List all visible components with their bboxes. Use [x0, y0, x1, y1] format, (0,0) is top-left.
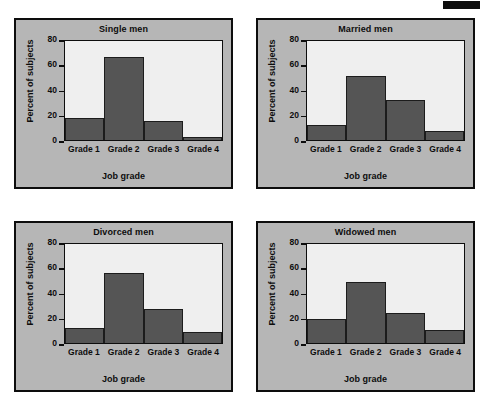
x-axis-tick-label: Grade 2 — [104, 347, 144, 357]
y-axis-ticks: 020406080 — [16, 243, 64, 344]
x-axis-tick-label: Grade 1 — [64, 144, 104, 154]
x-axis-tick-labels: Grade 1Grade 2Grade 3Grade 4 — [64, 347, 223, 357]
y-axis-tick-label: 20 — [290, 313, 299, 323]
x-axis-tick-label: Grade 4 — [425, 347, 465, 357]
y-axis-ticks: 020406080 — [16, 40, 64, 141]
y-axis-tick-label: 80 — [290, 237, 299, 247]
bar-chart-panel-grid: Single menPercent of subjects020406080Gr… — [0, 0, 490, 407]
x-axis-label: Job grade — [16, 374, 231, 384]
x-axis-tick-label: Grade 1 — [306, 347, 346, 357]
bar-series — [65, 244, 222, 343]
bar — [307, 319, 346, 343]
y-axis-tick-label: 60 — [290, 262, 299, 272]
y-axis-tick-label: 0 — [294, 338, 299, 348]
bar — [104, 57, 143, 140]
x-axis-tick-label: Grade 1 — [64, 347, 104, 357]
chart-panel: Widowed menPercent of subjects020406080G… — [256, 221, 475, 392]
y-axis-tick-label: 20 — [48, 110, 57, 120]
panel-title: Single men — [16, 24, 231, 34]
panel-title: Divorced men — [16, 227, 231, 237]
bar — [425, 330, 464, 343]
x-axis-tick-label: Grade 4 — [183, 144, 223, 154]
panel-title: Married men — [258, 24, 473, 34]
y-axis-tick-label: 80 — [290, 34, 299, 44]
x-axis-tick-label: Grade 3 — [386, 347, 426, 357]
y-axis-tick-label: 20 — [48, 313, 57, 323]
bar-series — [307, 41, 464, 140]
y-axis-tick-label: 60 — [48, 59, 57, 69]
y-axis-ticks: 020406080 — [258, 243, 306, 344]
plot-area — [64, 40, 223, 141]
y-axis-tick-label: 40 — [290, 85, 299, 95]
x-axis-tick-label: Grade 4 — [425, 144, 465, 154]
bar-series — [307, 244, 464, 343]
bar — [65, 118, 104, 140]
bar — [386, 313, 425, 343]
y-axis-tick-label: 40 — [290, 288, 299, 298]
x-axis-tick-label: Grade 1 — [306, 144, 346, 154]
bar — [104, 273, 143, 343]
panel-title: Widowed men — [258, 227, 473, 237]
bar — [144, 121, 183, 140]
y-axis-tick-label: 60 — [290, 59, 299, 69]
bar — [183, 332, 222, 343]
x-axis-label: Job grade — [16, 171, 231, 181]
y-axis-tick-mark — [301, 344, 306, 346]
y-axis-tick-label: 80 — [48, 237, 57, 247]
bar — [425, 131, 464, 140]
y-axis-tick-mark — [59, 141, 64, 143]
plot-area — [64, 243, 223, 344]
y-axis-tick-label: 0 — [52, 338, 57, 348]
x-axis-tick-label: Grade 2 — [346, 347, 386, 357]
plot-area — [306, 243, 465, 344]
chart-panel: Divorced menPercent of subjects020406080… — [14, 221, 233, 392]
y-axis-ticks: 020406080 — [258, 40, 306, 141]
bar — [183, 137, 222, 140]
x-axis-tick-label: Grade 3 — [386, 144, 426, 154]
y-axis-tick-label: 80 — [48, 34, 57, 44]
chart-panel: Single menPercent of subjects020406080Gr… — [14, 18, 233, 189]
y-axis-tick-label: 20 — [290, 110, 299, 120]
bar — [386, 100, 425, 140]
bar — [307, 125, 346, 140]
x-axis-tick-labels: Grade 1Grade 2Grade 3Grade 4 — [306, 144, 465, 154]
x-axis-tick-label: Grade 3 — [144, 144, 184, 154]
y-axis-tick-label: 0 — [52, 135, 57, 145]
chart-panel: Married menPercent of subjects020406080G… — [256, 18, 475, 189]
x-axis-label: Job grade — [258, 171, 473, 181]
bar — [144, 309, 183, 343]
x-axis-tick-labels: Grade 1Grade 2Grade 3Grade 4 — [64, 144, 223, 154]
x-axis-tick-labels: Grade 1Grade 2Grade 3Grade 4 — [306, 347, 465, 357]
bar — [346, 76, 385, 140]
y-axis-tick-label: 60 — [48, 262, 57, 272]
x-axis-tick-label: Grade 4 — [183, 347, 223, 357]
y-axis-tick-label: 40 — [48, 85, 57, 95]
x-axis-tick-label: Grade 3 — [144, 347, 184, 357]
bar-series — [65, 41, 222, 140]
y-axis-tick-label: 0 — [294, 135, 299, 145]
y-axis-tick-label: 40 — [48, 288, 57, 298]
y-axis-tick-mark — [59, 344, 64, 346]
bar — [65, 328, 104, 343]
x-axis-label: Job grade — [258, 374, 473, 384]
y-axis-tick-mark — [301, 141, 306, 143]
bar — [346, 282, 385, 343]
x-axis-tick-label: Grade 2 — [104, 144, 144, 154]
x-axis-tick-label: Grade 2 — [346, 144, 386, 154]
plot-area — [306, 40, 465, 141]
